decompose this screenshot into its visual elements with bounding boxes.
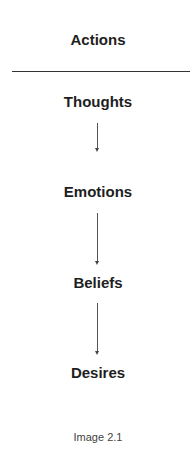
arrow-down-icon [97,213,98,262]
arrow-down-icon [97,303,98,352]
arrow-down-icon [97,123,98,149]
node-beliefs: Beliefs [0,274,196,292]
figure-caption: Image 2.1 [0,431,196,443]
node-thoughts: Thoughts [0,93,196,111]
divider-line [12,71,190,72]
actions-label: Actions [0,31,196,49]
node-emotions: Emotions [0,183,196,201]
node-desires: Desires [0,364,196,382]
